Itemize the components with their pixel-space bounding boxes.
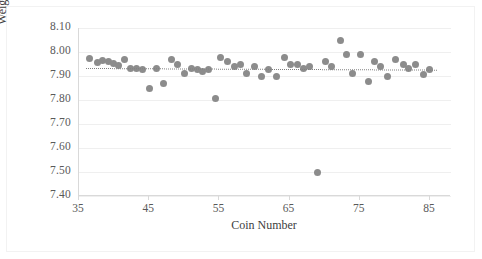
- data-point: [412, 61, 419, 68]
- data-point: [314, 169, 321, 176]
- x-tick-mark: [359, 196, 360, 200]
- data-point: [224, 58, 231, 65]
- x-tick-label: 45: [128, 202, 168, 214]
- x-tick-mark: [429, 196, 430, 200]
- data-point: [273, 73, 280, 80]
- data-point: [237, 61, 244, 68]
- data-point: [392, 56, 399, 63]
- gridline-y: [79, 172, 451, 173]
- x-tick-label: 55: [198, 202, 238, 214]
- data-point: [212, 95, 219, 102]
- x-tick-mark: [218, 196, 219, 200]
- data-point: [86, 55, 93, 62]
- y-tick-label: 7.50: [50, 164, 71, 176]
- x-tick-label: 35: [58, 202, 98, 214]
- data-point: [281, 54, 288, 61]
- plot-area: [78, 28, 450, 196]
- x-tick-mark: [289, 196, 290, 200]
- gridline-y: [79, 148, 451, 149]
- data-point: [343, 51, 350, 58]
- data-point: [384, 73, 391, 80]
- data-point: [217, 54, 224, 61]
- y-tick-label: 8.10: [50, 20, 71, 32]
- data-point: [121, 56, 128, 63]
- data-point: [365, 78, 372, 85]
- y-tick-label: 7.60: [50, 140, 71, 152]
- gridline-y: [79, 76, 451, 77]
- x-tick-label: 65: [269, 202, 309, 214]
- gridline-y: [79, 28, 451, 29]
- gridline-y: [79, 196, 451, 197]
- y-tick-label: 8.00: [50, 44, 71, 56]
- data-point: [160, 80, 167, 87]
- y-tick-label: 7.40: [50, 188, 71, 200]
- gridline-y: [79, 100, 451, 101]
- data-point: [357, 51, 364, 58]
- y-tick-label: 7.90: [50, 68, 71, 80]
- gridline-y: [79, 52, 451, 53]
- data-point: [174, 61, 181, 68]
- x-tick-label: 75: [339, 202, 379, 214]
- data-point: [258, 73, 265, 80]
- x-tick-mark: [148, 196, 149, 200]
- y-tick-label: 7.80: [50, 92, 71, 104]
- x-tick-label: 85: [409, 202, 449, 214]
- x-tick-mark: [78, 196, 79, 200]
- data-point: [146, 85, 153, 92]
- gridline-y: [79, 124, 451, 125]
- y-tick-label: 7.70: [50, 116, 71, 128]
- x-axis-title: Coin Number: [78, 218, 450, 233]
- y-axis-title: Weight (gms): [0, 0, 10, 52]
- scatter-chart: Weight (gms) 8.108.007.907.807.707.607.5…: [0, 0, 482, 259]
- data-point: [337, 37, 344, 44]
